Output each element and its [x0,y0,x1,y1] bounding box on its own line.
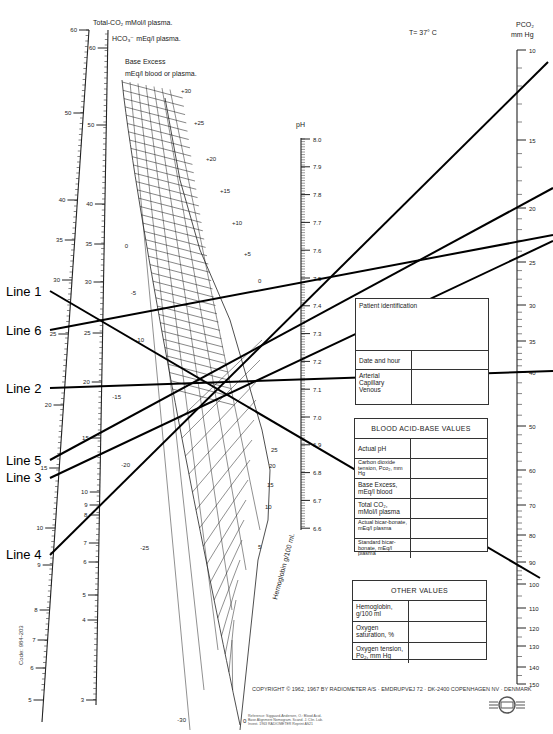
pco2-tick-label: 140 [529,665,540,671]
base-excess-tick-label: 0 [258,278,262,284]
actual-bicarbonate-label: Actual bicar-bonate, mEq/l plasma [355,519,411,538]
hco3-tick-label: 25 [84,330,91,336]
hco3-tick-label: 60 [89,45,96,51]
hemoglobin-field[interactable] [409,601,486,621]
temperature-label: T= 37° C [409,29,437,36]
pco2-tick-label: 20 [529,206,536,212]
blood-acid-base-title: BLOOD ACID-BASE VALUES [355,419,487,439]
total-co2-tick-label: 15 [41,465,48,471]
other-values-box: OTHER VALUES Hemoglobin, g/100 ml Oxygen… [352,580,487,660]
hco3-tick-label: 9 [84,502,88,508]
line-2-label: Line 2 [6,381,41,396]
ph-tick-label: 6.7 [313,498,322,504]
total-co2-tick-label: 6 [30,665,34,671]
patient-identification-title: Patient identification [356,299,488,351]
base-excess-tick-label: -25 [140,545,149,551]
oxygen-saturation-label: Oxygen saturation, % [353,622,409,642]
pco2-tick-label: 10 [529,48,536,54]
radiometer-logo [487,694,527,716]
hemoglobin-tick-label: 25 [271,447,278,453]
base-excess-title-1: Base Excess [125,58,166,65]
actual-ph-field[interactable] [411,439,487,458]
hco3-tick-label: 4 [82,617,86,623]
total-co2-field[interactable] [411,499,487,518]
total-co2-tick-label: 30 [53,277,60,283]
hco3-tick-label: 3 [81,697,85,703]
base-excess-tick-label: -30 [177,717,186,723]
pco2-tick-label: 110 [529,606,539,612]
hco3-title: HCO₃⁻ mEq/l plasma. [112,35,181,43]
pco2-title-2: mm Hg [511,31,534,39]
ph-tick-label: 7.4 [313,303,322,309]
oxygen-saturation-field[interactable] [409,622,486,642]
hemoglobin-tick-label: 15 [267,482,274,488]
pco2-tick-label: 15 [529,138,536,144]
hemoglobin-tick-label: 10 [265,504,272,510]
pco2-title-1: PCO₂ [516,21,534,28]
actual-ph-label: Actual pH [355,439,411,458]
base-excess-grid [122,80,270,730]
hco3-tick-label: 6 [83,559,87,565]
ph-tick-label: 6.6 [313,526,322,532]
total-co2-tick-label: 60 [70,27,77,33]
ph-tick-label: 7.8 [313,192,322,198]
sample-type-label: Arterial Capillary Venous [356,370,412,405]
hemoglobin-label: Hemoglobin, g/100 ml [353,601,409,621]
pco2-label: Carbon dioxide tension, Pco₂, mm Hg [355,459,411,478]
pco2-tick-label: 120 [529,626,540,632]
other-values-title: OTHER VALUES [353,581,486,601]
ph-tick-label: 7.3 [313,331,322,337]
hco3-axis [96,30,108,705]
date-hour-label: Date and hour [356,351,412,369]
base-excess-tick-label: +20 [206,156,217,162]
pco2-tick-label: 30 [529,303,536,309]
total-co2-tick-label: 25 [50,331,57,337]
line-3-label: Line 3 [6,470,41,485]
total-co2-tick-label: 9 [37,562,41,568]
line-6-label: Line 6 [6,323,41,338]
standard-bicarbonate-field[interactable] [411,539,487,558]
pco2-tick-label: 35 [529,339,536,345]
base-excess-tick-label: +5 [244,251,252,257]
base-excess-tick-label: +30 [181,88,192,94]
copyright-notice: COPYRIGHT © 1962, 1967 BY RADIOMETER A/S… [252,686,532,692]
ph-tick-label: 8.0 [313,137,322,143]
pco2-tick-label: 25 [529,260,536,266]
blood-acid-base-box: BLOOD ACID-BASE VALUES Actual pH Carbon … [354,418,488,552]
ph-tick-label: 6.8 [313,470,322,476]
base-excess-tick-label: -20 [121,462,130,468]
patient-identification-box: Patient identification Date and hour Art… [355,298,489,405]
hemoglobin-title: Hemoglobin g/100 ml. [271,533,296,601]
total-co2-tick-label: 20 [45,402,52,408]
ph-title: pH [296,121,305,129]
base-excess-tick-label: +25 [194,120,205,126]
pco2-field[interactable] [411,459,487,478]
pco2-tick-label: 130 [529,644,540,650]
total-co2-tick-label: 8 [34,607,38,613]
reference-note: Reference: Siggaard-Andersen, O.: Blood … [248,714,328,726]
pco2-tick-label: 60 [529,468,536,474]
ph-tick-label: 7.7 [313,220,322,226]
hco3-tick-label: 40 [86,201,93,207]
actual-bicarbonate-field[interactable] [411,519,487,538]
total-co2-tick-label: 50 [65,110,72,116]
base-excess-field[interactable] [411,479,487,498]
oxygen-tension-label: Oxygen tension, Po₂, mm Hg [353,643,409,663]
total-co2-tick-label: 10 [36,525,43,531]
total-co2-tick-label: 35 [56,237,63,243]
total-co2-title: Total-CO₂ mMol/l plasma. [93,19,172,27]
sample-type-field[interactable] [412,370,488,405]
pco2-tick-label: 90 [529,560,536,566]
hemoglobin-tick-label: 20 [269,463,276,469]
ph-tick-label: 7.0 [313,415,322,421]
date-hour-field[interactable] [412,351,488,369]
hemoglobin-tick-label: 0 [243,718,247,724]
ph-tick-label: 7.2 [313,359,322,365]
pco2-tick-label: 50 [529,424,536,430]
line-1-label: Line 1 [6,284,41,299]
hco3-tick-label: 20 [83,379,90,385]
base-excess-title-2: mEq/l blood or plasma. [125,70,197,78]
pco2-tick-label: 80 [529,533,536,539]
oxygen-tension-field[interactable] [409,643,486,663]
hco3-tick-label: 5 [83,592,87,598]
